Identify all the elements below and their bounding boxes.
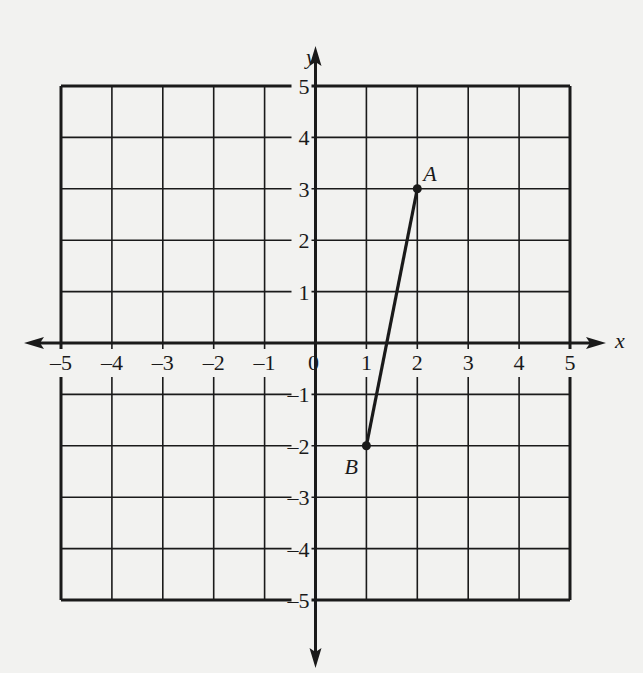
line-segment (366, 189, 417, 446)
y-tick-label: 5 (299, 74, 310, 99)
x-tick-label: 4 (514, 350, 525, 375)
x-tick-label: –1 (253, 350, 276, 375)
point-b-label: B (344, 454, 357, 479)
point-b-marker (362, 441, 371, 450)
x-tick-label: –2 (202, 350, 225, 375)
segment-ab (362, 184, 422, 450)
coordinate-plane: –5–4–3–2–112345054321–1–2–3–4–5 x y A B (0, 0, 643, 673)
x-tick-label: –5 (49, 350, 72, 375)
x-tick-label: 1 (361, 350, 372, 375)
y-tick-label: 2 (299, 228, 310, 253)
y-tick-label: –2 (287, 434, 310, 459)
y-tick-label: 1 (299, 280, 310, 305)
x-tick-label: 2 (412, 350, 423, 375)
x-tick-label: 3 (463, 350, 474, 375)
x-tick-label: –3 (151, 350, 174, 375)
y-axis-label: y (304, 44, 316, 69)
point-a-marker (413, 184, 422, 193)
x-tick-label: –4 (100, 350, 123, 375)
x-axis-label: x (614, 328, 625, 353)
y-tick-label: –1 (287, 382, 310, 407)
y-tick-label: 4 (299, 125, 310, 150)
y-tick-label: 3 (299, 177, 310, 202)
y-tick-label: –4 (287, 537, 310, 562)
y-tick-label: –3 (287, 485, 310, 510)
x-tick-label: 5 (565, 350, 576, 375)
origin-label: 0 (308, 350, 319, 375)
y-tick-label: –5 (287, 588, 310, 613)
point-a-label: A (421, 161, 437, 186)
